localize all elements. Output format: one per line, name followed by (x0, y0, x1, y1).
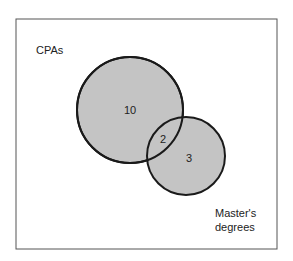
cpas-only-count: 10 (124, 104, 136, 116)
masters-only-count: 3 (186, 152, 192, 164)
masters-label-line2: degrees (215, 221, 255, 233)
cpas-label: CPAs (36, 44, 64, 56)
venn-diagram: CPAs 10 2 3 Master's degrees (0, 0, 293, 261)
intersection-count: 2 (160, 133, 166, 145)
masters-label-line1: Master's (215, 207, 257, 219)
